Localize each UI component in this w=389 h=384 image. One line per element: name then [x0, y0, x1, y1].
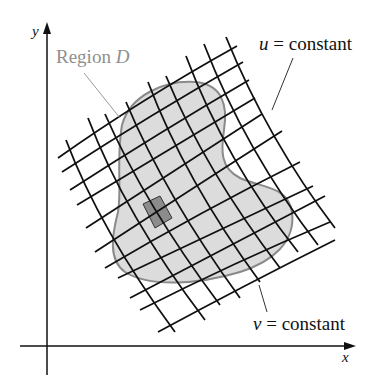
y-axis-arrow-icon — [43, 22, 51, 34]
x-axis-label: x — [341, 349, 349, 365]
v-constant-leader — [259, 285, 267, 312]
v-constant-label: v = constant — [253, 313, 346, 334]
region-d-label: Region D — [56, 46, 130, 67]
y-axis-label: y — [30, 23, 39, 39]
region-d-leader — [84, 73, 120, 118]
u-constant-leader — [272, 58, 293, 110]
change-of-variables-diagram: y x Region D u = constant v = constant — [0, 0, 389, 384]
u-constant-label: u = constant — [259, 33, 353, 54]
